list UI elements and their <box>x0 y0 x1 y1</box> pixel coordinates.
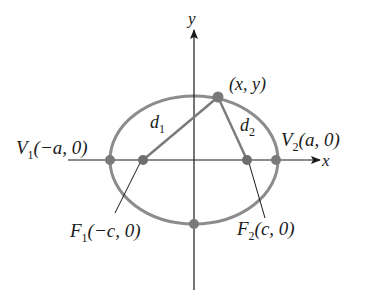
v1-label: V1(−a, 0) <box>16 137 88 162</box>
d1-label: d1 <box>150 112 165 136</box>
v1-coords: (−a, 0) <box>34 137 88 159</box>
v2-label: V2(a, 0) <box>281 129 340 154</box>
f1-coords: (−c, 0) <box>88 220 141 242</box>
d2-subscript: 2 <box>249 125 255 139</box>
focus-f1-point <box>138 155 148 165</box>
f2-leader-line <box>249 163 265 218</box>
f2-name: F <box>236 218 249 239</box>
vertex-v2-point <box>271 155 281 165</box>
f2-label: F2(c, 0) <box>236 218 295 243</box>
f1-label: F1(−c, 0) <box>69 220 141 245</box>
f1-name: F <box>69 220 82 241</box>
focus-f2-point <box>242 155 252 165</box>
f2-coords: (c, 0) <box>255 218 295 240</box>
y-axis-label: y <box>186 9 196 28</box>
ellipse-diagram: y x (x, y) d1 d2 V1(−a, 0) V2(a, 0) F1(−… <box>0 0 365 293</box>
d1-subscript: 1 <box>159 122 165 136</box>
x-axis-label: x <box>321 151 330 170</box>
co-vertex-bottom-point <box>189 219 199 229</box>
point-xy <box>213 92 224 103</box>
d2-label: d2 <box>240 115 255 139</box>
vertex-v1-point <box>105 155 115 165</box>
v2-coords: (a, 0) <box>299 129 340 151</box>
point-xy-label: (x, y) <box>229 74 266 95</box>
